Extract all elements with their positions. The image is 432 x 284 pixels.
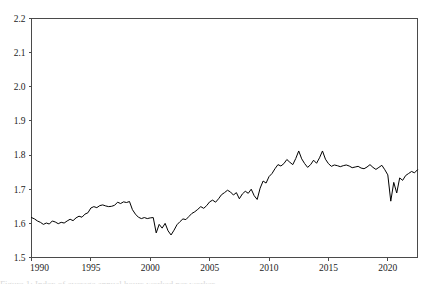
y-tick-label: 1.7 bbox=[14, 185, 26, 195]
figure-caption-partial: Figure 1: Index of average annual hours … bbox=[0, 279, 432, 284]
x-tick-label: 2020 bbox=[378, 263, 397, 273]
y-tick-label: 2.2 bbox=[14, 14, 26, 24]
y-tick-label: 1.8 bbox=[14, 150, 26, 160]
plot-background bbox=[0, 0, 432, 284]
x-tick-label: 2015 bbox=[319, 263, 338, 273]
y-tick-label: 2.0 bbox=[14, 82, 26, 92]
y-tick-label: 1.5 bbox=[14, 253, 26, 263]
y-tick-label: 2.1 bbox=[14, 48, 26, 58]
x-tick-label: 1990 bbox=[30, 263, 49, 273]
line-chart-plot: 1.51.61.71.81.92.02.12.2 199019952000200… bbox=[0, 0, 432, 284]
x-tick-label: 2010 bbox=[260, 263, 279, 273]
x-tick-label: 1995 bbox=[81, 263, 100, 273]
y-tick-label: 1.6 bbox=[14, 219, 26, 229]
chart-figure: 1.51.61.71.81.92.02.12.2 199019952000200… bbox=[0, 0, 432, 284]
y-tick-label: 1.9 bbox=[14, 116, 26, 126]
x-tick-label: 2000 bbox=[141, 263, 160, 273]
x-tick-label: 2005 bbox=[200, 263, 219, 273]
